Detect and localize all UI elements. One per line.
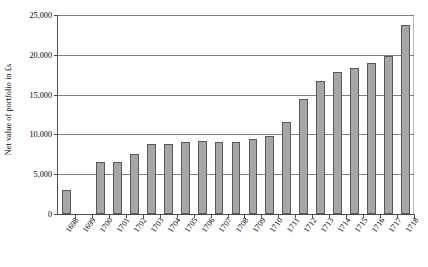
x-tick-label: 1714 [336,216,353,234]
bar [249,139,258,214]
bars-layer [58,15,414,214]
x-tick-label: 1711 [285,216,301,234]
bar [350,68,359,214]
bar [96,162,105,214]
plot-area [57,15,414,215]
x-tick-label: 1707 [217,216,234,234]
y-axis-tick-labels: 05,00010,00015,00020,00025,000 [18,0,56,218]
y-tick-label: 0 [48,210,52,219]
bar [164,144,173,214]
x-tick-label: 1710 [268,216,285,234]
bar [299,99,308,214]
x-tick-label: 1705 [183,216,200,234]
y-axis-title: Net value of portfolio in £s [0,0,18,218]
bar [147,144,156,214]
bar [113,162,122,214]
x-tick-label: 1700 [98,216,115,234]
bar [282,122,291,214]
x-tick-label: 1701 [115,216,132,234]
bar [215,142,224,214]
x-tick-label: 1702 [132,216,149,234]
x-tick-label: 1706 [200,216,217,234]
x-tick-label: 1717 [386,216,403,234]
bar [62,190,71,214]
bar [401,25,410,214]
bar [232,142,241,214]
bar-chart: Net value of portfolio in £s 05,00010,00… [0,0,428,267]
x-tick-label: 1713 [319,216,336,234]
y-axis-title-text: Net value of portfolio in £s [5,63,14,155]
bar [367,63,376,214]
y-tick-label: 10,000 [29,130,52,139]
x-axis-tick-labels: 1698169917001701170217031704170517061707… [57,216,413,267]
y-tick-label: 15,000 [29,90,52,99]
bar [333,72,342,214]
y-tick-label: 20,000 [29,50,52,59]
y-tick-label: 5,000 [34,170,52,179]
bar [181,142,190,214]
x-tick-label: 1718 [403,216,420,234]
y-tick-label: 25,000 [29,11,52,20]
x-tick-label: 1709 [251,216,268,234]
x-tick-label: 1699 [81,216,98,234]
bar [384,56,393,214]
x-tick-label: 1708 [234,216,251,234]
bar [130,154,139,214]
y-tickmark [54,214,58,215]
x-tick-label: 1698 [64,216,81,234]
x-tick-label: 1703 [149,216,166,234]
x-tick-label: 1715 [352,216,369,234]
bar [198,141,207,214]
x-tick-label: 1712 [302,216,319,234]
x-tick-label: 1716 [369,216,386,234]
x-tick-label: 1704 [166,216,183,234]
bar [265,136,274,214]
bar [316,81,325,214]
